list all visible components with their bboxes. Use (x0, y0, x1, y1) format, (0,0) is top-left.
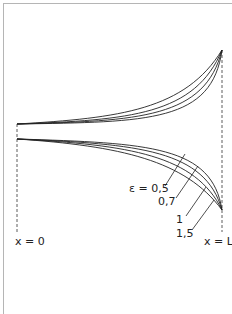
curve-diagram (0, 0, 232, 314)
label-leaders (165, 154, 214, 230)
label-x-0: x = 0 (15, 236, 45, 247)
label-x-L: x = L (204, 236, 232, 247)
label-epsilon-1: 1 (176, 214, 183, 225)
label-epsilon-1-5: 1,5 (176, 228, 194, 239)
upper-curves (17, 50, 222, 124)
label-epsilon-0-7: 0,7 (158, 196, 176, 207)
label-epsilon-0-5: ε = 0,5 (129, 183, 169, 194)
lower-curves (17, 139, 222, 210)
